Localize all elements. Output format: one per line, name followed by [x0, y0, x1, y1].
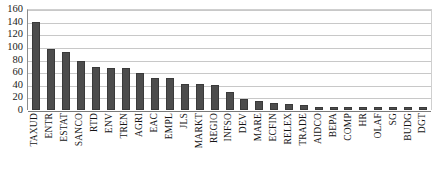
x-axis-tick-label: TREN	[120, 113, 130, 139]
bar-slot	[222, 10, 237, 110]
bar-slot	[207, 10, 222, 110]
bar	[77, 61, 85, 110]
x-axis-tick-label: HR	[359, 113, 369, 127]
bar	[136, 73, 144, 110]
x-axis: TAXUDENTRESTATSANCORTDENVTRENAGRIEACEMPL…	[27, 111, 432, 175]
y-axis-tick-label: 0	[18, 105, 23, 115]
x-axis-tick-label: MARKT	[195, 113, 205, 148]
bar-slot	[133, 10, 148, 110]
bar-slot	[59, 10, 74, 110]
bar-slot	[178, 10, 193, 110]
x-axis-tick-label: AGRI	[135, 113, 145, 137]
bar	[226, 92, 234, 110]
bar-slot	[88, 10, 103, 110]
bar-slot	[44, 10, 59, 110]
plot-area	[27, 9, 432, 110]
bar-series	[28, 10, 431, 110]
bar	[240, 99, 248, 110]
y-axis-tick-label: 100	[7, 42, 23, 52]
x-axis-tick: TREN	[118, 111, 133, 175]
x-axis-tick-label: TRADE	[299, 113, 309, 146]
bar	[211, 85, 219, 110]
x-axis-tick: TAXUD	[28, 111, 43, 175]
x-axis-tick-label: MARE	[255, 113, 265, 141]
bar-slot	[267, 10, 282, 110]
x-axis-tick: MARKT	[192, 111, 207, 175]
x-axis-tick: ESTAT	[58, 111, 73, 175]
x-axis-tick-label: EMPL	[165, 113, 175, 139]
bar-slot	[148, 10, 163, 110]
bar-slot	[237, 10, 252, 110]
x-axis-tick: ENTR	[43, 111, 58, 175]
x-axis-tick-label: ENTR	[46, 113, 56, 139]
x-axis-tick-label: INFSO	[225, 113, 235, 141]
x-axis-tick: EAC	[147, 111, 162, 175]
bar	[122, 68, 130, 110]
y-axis-tick-label: 160	[7, 4, 23, 14]
x-axis-tick-label: ENV	[105, 113, 115, 133]
x-axis-tick: MARE	[252, 111, 267, 175]
x-axis-tick: SANCO	[73, 111, 88, 175]
x-axis-tick: BUDG	[401, 111, 416, 175]
bar	[196, 84, 204, 111]
bar-chart: 160140120100806040200 TAXUDENTRESTATSANC…	[0, 0, 436, 176]
x-axis-tick-label: ECFIN	[269, 113, 279, 141]
x-axis-tick-label: DEV	[240, 113, 250, 133]
x-axis-tick-label: JLS	[180, 113, 190, 128]
bar	[359, 107, 367, 110]
bar-slot	[296, 10, 311, 110]
bar	[255, 101, 263, 110]
x-axis-tick: AIDCO	[312, 111, 327, 175]
x-axis-tick: JLS	[177, 111, 192, 175]
x-axis-tick: ECFIN	[267, 111, 282, 175]
bar-slot	[74, 10, 89, 110]
bar	[419, 107, 427, 110]
y-axis-tick-label: 40	[13, 80, 24, 90]
x-axis-tick: HR	[356, 111, 371, 175]
bar-slot	[311, 10, 326, 110]
x-axis-tick: RELEX	[282, 111, 297, 175]
x-axis-tick: INFSO	[222, 111, 237, 175]
y-axis-tick-label: 120	[7, 29, 23, 39]
bar-slot	[29, 10, 44, 110]
x-axis-tick: RTD	[88, 111, 103, 175]
bar	[92, 67, 100, 110]
x-axis-tick-label: OLAF	[374, 113, 384, 139]
bar-slot	[386, 10, 401, 110]
bar	[330, 107, 338, 110]
x-axis-tick-label: REGIO	[210, 113, 220, 143]
bar-slot	[341, 10, 356, 110]
x-axis-tick: OLAF	[371, 111, 386, 175]
bar	[47, 49, 55, 110]
x-axis-tick-label: AIDCO	[314, 113, 324, 144]
bar-slot	[103, 10, 118, 110]
x-axis-tick-label: TAXUD	[31, 113, 41, 147]
bar	[32, 22, 40, 110]
bar	[107, 68, 115, 110]
x-axis-tick: COMP	[341, 111, 356, 175]
bar-slot	[326, 10, 341, 110]
x-axis-tick: DGT	[416, 111, 431, 175]
y-axis-tick-label: 20	[13, 92, 24, 102]
bar	[344, 107, 352, 110]
bar	[62, 52, 70, 110]
bar	[300, 105, 308, 110]
x-axis-tick: SG	[386, 111, 401, 175]
bar-slot	[252, 10, 267, 110]
x-axis-tick: TRADE	[297, 111, 312, 175]
bar-slot	[282, 10, 297, 110]
x-axis-tick: ENV	[103, 111, 118, 175]
x-axis-tick: BEPA	[326, 111, 341, 175]
x-axis-tick-label: BEPA	[329, 113, 339, 137]
bar-slot	[356, 10, 371, 110]
bar-slot	[400, 10, 415, 110]
y-axis-tick-label: 140	[7, 17, 23, 27]
bar-slot	[415, 10, 430, 110]
bar	[315, 107, 323, 110]
bar	[166, 78, 174, 110]
x-axis-tick-label: BUDG	[404, 113, 414, 141]
x-axis-tick-label: COMP	[344, 113, 354, 141]
x-axis-tick: AGRI	[132, 111, 147, 175]
bar-slot	[163, 10, 178, 110]
x-axis-tick-label: ESTAT	[61, 113, 71, 142]
